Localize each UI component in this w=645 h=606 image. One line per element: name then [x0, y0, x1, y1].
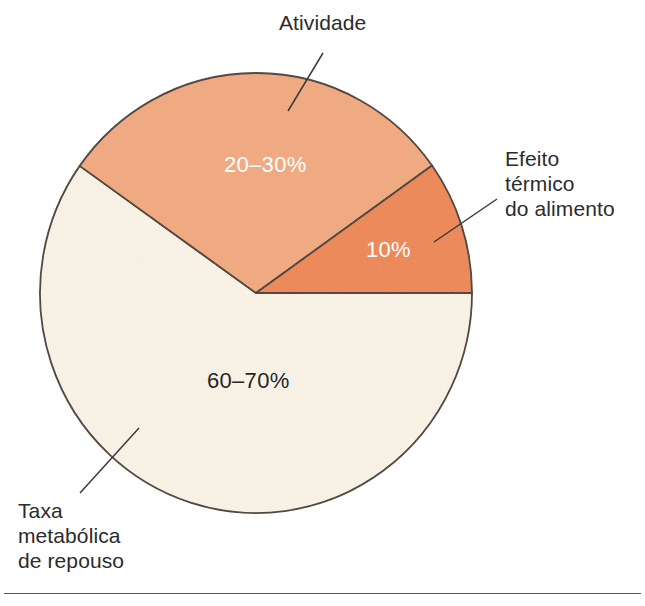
bottom-divider-rule — [4, 593, 641, 594]
callout-label-atividade: Atividade — [279, 10, 366, 35]
pie-slices-group — [40, 73, 472, 513]
slice-value-taxa-metabolica: 60–70% — [207, 368, 290, 394]
slice-value-efeito-termico: 10% — [366, 237, 411, 263]
callout-label-efeito-termico: Efeito térmico do alimento — [505, 146, 615, 221]
callout-label-taxa-metabolica: Taxa metabólica de repouso — [18, 498, 124, 573]
slice-value-atividade: 20–30% — [224, 152, 307, 178]
pie-chart-figure: Atividade Efeito térmico do alimento Tax… — [0, 0, 645, 606]
